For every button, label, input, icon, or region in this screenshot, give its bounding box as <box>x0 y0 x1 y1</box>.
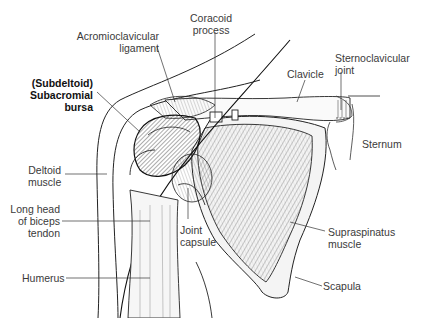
label-acromioclavicular-ligament: Acromioclavicular ligament <box>75 30 159 54</box>
joint-capsule-shape <box>172 154 212 202</box>
label-long-head-biceps-tendon: Long head of biceps tendon <box>8 203 60 239</box>
label-scapula: Scapula <box>323 280 361 292</box>
label-sternoclavicular-joint: Sternoclavicular joint <box>335 52 410 76</box>
label-coracoid-process: Coracoid process <box>190 12 232 36</box>
label-deltoid-muscle: Deltoid muscle <box>28 164 61 188</box>
label-humerus: Humerus <box>22 272 65 284</box>
shoulder-illustration <box>0 0 421 318</box>
scapula-shape <box>192 116 326 298</box>
humerus-shape <box>128 190 212 318</box>
label-supraspinatus-muscle: Supraspinatus muscle <box>328 226 395 250</box>
label-sternum: Sternum <box>362 138 402 150</box>
label-joint-capsule: Joint capsule <box>180 224 216 248</box>
label-subacromial-bursa: (Subdeltoid) Subacromial bursa <box>20 77 93 113</box>
label-clavicle: Clavicle <box>287 68 324 80</box>
shoulder-anatomy-diagram: Coracoid process Acromioclavicular ligam… <box>0 0 421 318</box>
